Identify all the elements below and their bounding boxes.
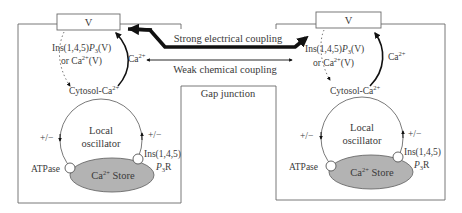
left-ca-voltage-label: or Ca2+(V) xyxy=(61,54,102,67)
right-receptor-label-line1: Ins(1,4,5) xyxy=(404,147,441,158)
right-atpase-pump xyxy=(326,161,336,171)
right-plus-minus-right: +/− xyxy=(408,129,421,139)
left-cell: V Ins(1,4,5)P3(V) or Ca2+(V) Ca2+ Cytoso… xyxy=(18,14,181,203)
left-receptor-label-line2: P3R xyxy=(155,162,172,173)
right-ip3-receptor xyxy=(393,152,403,162)
strong-coupling-left-head xyxy=(131,29,152,30)
weak-coupling-label: Weak chemical coupling xyxy=(173,64,277,75)
gap-junction-label: Gap junction xyxy=(201,88,256,99)
left-oscillator-label-line2: oscillator xyxy=(81,138,121,149)
right-ins-dotted-arrow xyxy=(321,30,330,80)
left-atpase-pump xyxy=(65,163,75,173)
left-plus-minus-right: +/− xyxy=(148,130,161,140)
right-ca-flux-label: Ca2+ xyxy=(388,50,406,62)
right-voltage-label: V xyxy=(345,15,353,26)
right-cytosol-label: Cytosol-Ca2+ xyxy=(330,84,381,96)
right-ins-label: Ins(1,4,5)P3(V) xyxy=(305,44,364,55)
gap-junction: Gap junction xyxy=(181,86,276,99)
right-oscillator-label-line2: oscillator xyxy=(342,135,382,146)
left-receptor-label-line1: Ins(1,4,5) xyxy=(144,149,181,160)
left-ca-flux-arrow xyxy=(116,33,128,86)
right-receptor-label-line2: P3R xyxy=(413,160,430,171)
left-ins-label: Ins(1,4,5)P3(V) xyxy=(52,43,111,54)
left-ca-flux-label: Ca2+ xyxy=(128,52,146,64)
left-atpase-label: ATPase xyxy=(31,164,60,174)
left-voltage-label: V xyxy=(85,17,93,28)
left-ca-store-label: Ca2+ Store xyxy=(91,169,135,181)
coupled-oscillator-diagram: V Ins(1,4,5)P3(V) or Ca2+(V) Ca2+ Cytoso… xyxy=(0,0,462,213)
strong-coupling-label: Strong electrical coupling xyxy=(174,33,283,44)
left-oscillator-label-line1: Local xyxy=(89,125,113,136)
left-ip3-receptor xyxy=(133,154,143,164)
right-atpase-label: ATPase xyxy=(289,162,318,172)
right-ca-flux-arrow xyxy=(370,33,383,86)
right-ca-store-label: Ca2+ Store xyxy=(350,166,394,178)
right-plus-minus-left: +/− xyxy=(300,131,313,141)
left-plus-minus-left: +/− xyxy=(40,133,53,143)
right-oscillator-label-line1: Local xyxy=(350,122,374,133)
left-cytosol-label: Cytosol-Ca2+ xyxy=(69,84,120,96)
right-ca-voltage-label: or Ca2+(V) xyxy=(313,56,354,69)
